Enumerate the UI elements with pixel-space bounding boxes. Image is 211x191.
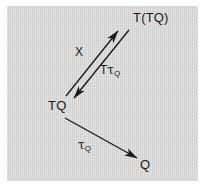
tau-glyph: τ — [78, 138, 85, 152]
edge-label-x: X — [75, 46, 83, 58]
subscript-q: Q — [114, 69, 120, 78]
diagram-arrows — [7, 6, 198, 181]
node-label-t-tq: T(TQ) — [133, 11, 169, 24]
node-label-q: Q — [140, 158, 150, 171]
tau-glyph: τ — [107, 63, 114, 77]
edge-label-tau-q: τQ — [78, 139, 91, 153]
node-label-tq: TQ — [48, 99, 66, 112]
figure-root: T(TQ) TQ Q X TτQ τQ — [0, 0, 211, 191]
subscript-q: Q — [85, 144, 91, 153]
diagram-panel: T(TQ) TQ Q X TτQ τQ — [7, 6, 198, 181]
arrow-tau-q — [65, 118, 137, 158]
edge-label-t-tau-q: TτQ — [100, 64, 120, 78]
